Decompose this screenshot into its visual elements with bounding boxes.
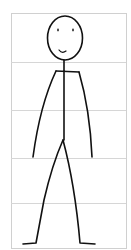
eye	[72, 29, 74, 32]
shoulders	[56, 71, 79, 72]
stick-figure	[23, 16, 95, 244]
smile	[59, 50, 66, 52]
left-arm	[33, 71, 56, 157]
grid-lines	[11, 63, 126, 204]
stick-figure-diagram	[0, 0, 131, 250]
left-leg	[23, 140, 63, 244]
head	[48, 16, 83, 60]
figure-frame	[12, 14, 127, 249]
right-arm	[79, 72, 92, 157]
right-leg	[63, 140, 95, 244]
eyes	[57, 29, 74, 32]
eye	[57, 29, 59, 32]
